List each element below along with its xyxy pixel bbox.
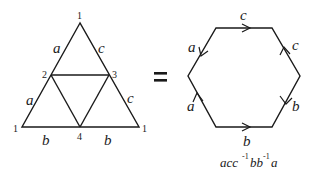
equals-sign xyxy=(154,72,167,82)
hex-edge-label-upper-left: a xyxy=(188,39,196,55)
hex-edge-label-top: c xyxy=(240,7,247,23)
word-part-bb: bb xyxy=(250,155,264,170)
edge-label-bottom-right: b xyxy=(104,132,112,148)
word-part-acc: acc xyxy=(220,155,238,170)
edge-label-bottom-left: b xyxy=(42,132,50,148)
inner-edge-2-4 xyxy=(51,75,80,127)
boundary-word: acc -1 bb -1 a xyxy=(220,152,278,170)
vertex-label-bottom-right: 1 xyxy=(142,123,147,134)
hexagon-polygon: c c b b a a acc -1 bb -1 a xyxy=(187,7,300,170)
hex-edge-label-lower-right: b xyxy=(292,98,300,114)
hexagon-outline xyxy=(188,28,300,127)
subdivided-triangle: 1 2 3 1 4 1 a a c c b b xyxy=(13,10,147,148)
hex-edge-label-upper-right: c xyxy=(292,37,299,53)
vertex-label-apex: 1 xyxy=(77,10,82,21)
vertex-label-bottom-left: 1 xyxy=(13,123,18,134)
vertex-label-4: 4 xyxy=(77,131,82,142)
vertex-label-2: 2 xyxy=(42,69,47,80)
hex-edge-label-bottom: b xyxy=(243,133,251,149)
diagram-canvas: 1 2 3 1 4 1 a a c c b b c c b xyxy=(0,0,314,178)
edge-label-upper-left: a xyxy=(53,40,61,56)
word-part-a: a xyxy=(271,155,278,170)
edge-label-upper-right: c xyxy=(98,40,105,56)
inner-edge-3-4 xyxy=(80,75,109,127)
edge-label-lower-right: c xyxy=(127,90,134,106)
hex-edge-label-lower-left: a xyxy=(187,98,195,114)
word-exp-2: -1 xyxy=(263,152,270,161)
word-exp-1: -1 xyxy=(242,152,249,161)
edge-label-lower-left: a xyxy=(26,92,34,108)
vertex-label-3: 3 xyxy=(112,69,117,80)
